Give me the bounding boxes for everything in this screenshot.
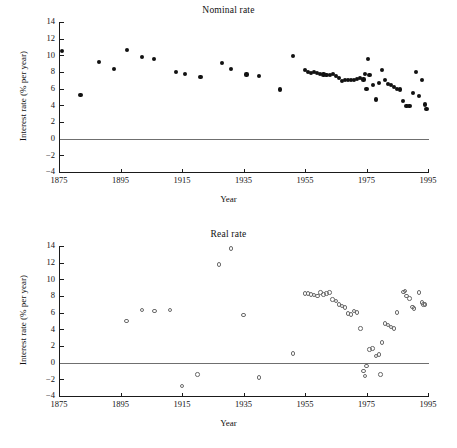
data-point xyxy=(392,326,396,330)
data-point xyxy=(363,374,367,378)
x-axis-tick-label: 1975 xyxy=(347,400,387,409)
y-axis-tick-label: 8 xyxy=(27,291,55,300)
y-axis-tick-label: 6 xyxy=(27,308,55,317)
x-axis-tick-label: 1875 xyxy=(39,400,79,409)
real-rate-x-axis-label: Year xyxy=(0,418,457,428)
data-point xyxy=(229,246,233,250)
y-axis-tick xyxy=(60,155,64,156)
y-axis-tick-label: 12 xyxy=(27,34,55,43)
y-axis-tick xyxy=(60,89,64,90)
data-point xyxy=(370,346,374,350)
data-point xyxy=(423,102,427,106)
data-point xyxy=(407,296,411,300)
x-axis-tick-label: 1995 xyxy=(408,176,448,185)
data-point xyxy=(183,72,187,76)
real-rate-figure: Real rate −4−202468101214187518951915193… xyxy=(0,224,457,448)
x-axis-tick-label: 1955 xyxy=(285,176,325,185)
data-point xyxy=(412,306,416,310)
y-axis-tick xyxy=(60,296,64,297)
nominal-rate-figure: Nominal rate −4−202468101214187518951915… xyxy=(0,0,457,224)
data-point xyxy=(407,104,411,108)
y-axis-tick-label: 0 xyxy=(27,134,55,143)
data-point xyxy=(168,308,172,312)
data-point xyxy=(343,305,347,309)
data-point xyxy=(417,94,421,98)
x-axis-tick-label: 1935 xyxy=(224,400,264,409)
x-axis-tick-label: 1895 xyxy=(101,400,141,409)
y-axis-tick xyxy=(60,279,64,280)
y-axis-tick xyxy=(60,22,64,23)
data-point xyxy=(60,49,64,53)
data-point xyxy=(377,81,381,85)
data-point xyxy=(78,93,82,97)
y-axis-tick-label: 10 xyxy=(27,51,55,60)
data-point xyxy=(420,78,424,82)
x-axis-tick-label: 1895 xyxy=(101,176,141,185)
data-point xyxy=(355,310,359,314)
data-point xyxy=(257,375,261,379)
x-axis-tick xyxy=(367,393,368,397)
y-axis-tick xyxy=(60,379,64,380)
y-axis-tick-label: 6 xyxy=(27,84,55,93)
real-rate-y-axis-label: Interest rate (% per year) xyxy=(18,275,28,365)
data-point xyxy=(367,73,371,77)
x-axis-tick xyxy=(59,169,60,173)
x-axis-tick xyxy=(305,169,306,173)
y-axis-tick-label: 12 xyxy=(27,258,55,267)
data-point xyxy=(380,68,384,72)
x-axis-tick xyxy=(428,169,429,173)
y-axis-tick xyxy=(60,39,64,40)
x-axis-tick xyxy=(121,169,122,173)
data-point xyxy=(112,67,116,71)
data-point xyxy=(423,302,427,306)
y-axis-tick xyxy=(60,172,64,173)
y-axis-tick xyxy=(60,346,64,347)
y-axis-tick-label: −2 xyxy=(27,375,55,384)
data-point xyxy=(411,91,415,95)
x-axis-tick xyxy=(59,393,60,397)
data-point xyxy=(257,74,261,78)
data-point xyxy=(174,70,178,74)
data-point xyxy=(152,309,156,313)
nominal-rate-x-axis-label: Year xyxy=(0,194,457,204)
data-point xyxy=(220,61,224,65)
x-axis-tick-label: 1875 xyxy=(39,176,79,185)
data-point xyxy=(358,326,362,330)
data-point xyxy=(403,289,407,293)
x-axis-tick-label: 1995 xyxy=(408,400,448,409)
y-axis-tick xyxy=(60,263,64,264)
data-point xyxy=(229,67,233,71)
y-axis-tick xyxy=(60,72,64,73)
x-axis-tick-label: 1915 xyxy=(162,176,202,185)
nominal-rate-y-axis-label: Interest rate (% per year) xyxy=(18,51,28,141)
x-axis-tick xyxy=(367,169,368,173)
data-point xyxy=(424,107,428,111)
data-point xyxy=(217,262,221,266)
real-rate-title: Real rate xyxy=(0,229,457,239)
y-axis-tick-label: 4 xyxy=(27,325,55,334)
data-point xyxy=(374,97,378,101)
data-point xyxy=(327,290,331,294)
y-axis-tick xyxy=(60,313,64,314)
nominal-rate-plot: −4−2024681012141875189519151935195519751… xyxy=(59,22,428,172)
data-point xyxy=(361,369,365,373)
x-axis-tick xyxy=(244,393,245,397)
nominal-rate-title: Nominal rate xyxy=(0,5,457,15)
x-axis-tick xyxy=(428,393,429,397)
data-point xyxy=(378,372,382,376)
data-point xyxy=(180,384,184,388)
data-point xyxy=(195,372,199,376)
data-point xyxy=(140,308,144,312)
y-axis-tick xyxy=(60,246,64,247)
data-point xyxy=(364,87,368,91)
y-axis-tick-label: 8 xyxy=(27,67,55,76)
data-point xyxy=(241,313,245,317)
data-point xyxy=(380,340,384,344)
x-axis-tick-label: 1935 xyxy=(224,176,264,185)
data-point xyxy=(417,290,421,294)
x-axis-tick-label: 1975 xyxy=(347,176,387,185)
data-point xyxy=(395,310,399,314)
data-point xyxy=(291,351,295,355)
x-axis-tick xyxy=(121,393,122,397)
data-point xyxy=(124,319,128,323)
